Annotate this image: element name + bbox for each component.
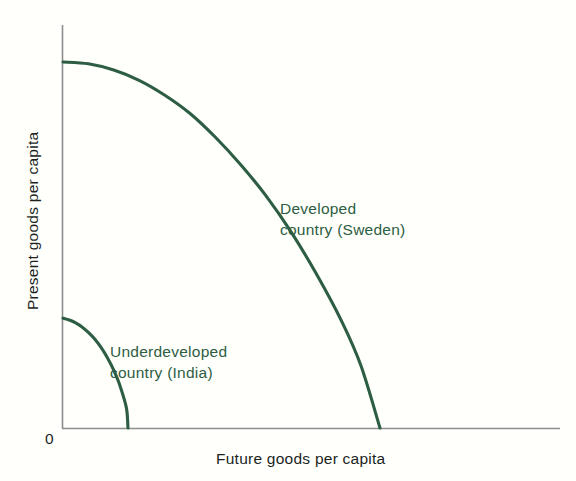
y-axis-label: Present goods per capita <box>24 132 42 310</box>
plot-area <box>0 0 576 481</box>
annotation-underdeveloped-line-1: Underdeveloped <box>110 341 227 362</box>
annotation-developed-line-2: country (Sweden) <box>280 219 405 240</box>
x-axis-label: Future goods per capita <box>216 450 385 468</box>
annotation-underdeveloped-country: Underdeveloped country (India) <box>110 341 227 383</box>
origin-label: 0 <box>45 430 54 448</box>
annotation-underdeveloped-line-2: country (India) <box>110 362 227 383</box>
annotation-developed-line-1: Developed <box>280 198 405 219</box>
annotation-developed-country: Developed country (Sweden) <box>280 198 405 240</box>
chart-container: Present goods per capita Future goods pe… <box>0 0 576 481</box>
